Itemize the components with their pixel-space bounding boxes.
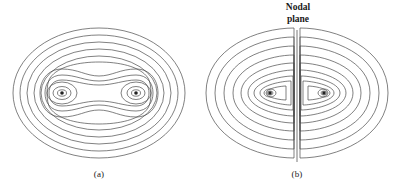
lobe-left — [206, 28, 294, 158]
contour-left-level-8 — [224, 46, 294, 140]
nucleus-right — [322, 91, 326, 95]
orbital-contour-figure: (a) — [0, 0, 396, 185]
contour-level-10 — [13, 28, 185, 158]
nodal-plane-label-line2: plane — [248, 14, 348, 26]
contour-level-8 — [27, 42, 171, 144]
nodal-plane-label: Nodal plane — [248, 2, 348, 25]
nucleus-right — [134, 91, 138, 95]
contour-left-level-10 — [206, 28, 294, 158]
panel-antibonding-orbital: (b) — [198, 0, 396, 185]
nucleus-left — [60, 91, 64, 95]
nucleus-left — [268, 91, 272, 95]
contour-right-level-9 — [300, 37, 379, 149]
contour-left-level-9 — [215, 37, 294, 149]
contour-right-level-10 — [300, 28, 388, 158]
lobe-right — [300, 28, 388, 158]
contour-level-9 — [20, 35, 178, 151]
panel-b-caption: (b) — [198, 170, 396, 179]
antibonding-contour-plot — [198, 0, 396, 185]
contour-right-level-7 — [300, 55, 361, 131]
nodal-plane-label-line1: Nodal — [248, 2, 348, 14]
panel-a-caption: (a) — [0, 170, 198, 179]
contour-level-6 — [41, 56, 157, 130]
contour-right-level-8 — [300, 46, 370, 140]
contour-left-level-3 — [260, 81, 291, 105]
bonding-contour-plot — [0, 0, 198, 185]
contour-level-2 — [49, 80, 149, 106]
contour-left-level-7 — [233, 55, 294, 131]
contour-right-level-3 — [303, 81, 334, 105]
panel-bonding-orbital: (a) — [0, 0, 198, 185]
